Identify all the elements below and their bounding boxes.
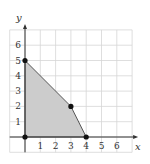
y-tick-labels: 123456 [15,40,21,127]
x-axis-label: x [135,141,141,152]
x-tick-labels: 123456 [37,141,120,151]
chart-plot: 123456 123456 x y [0,0,150,164]
y-tick-label: 4 [15,71,21,81]
x-tick-label: 1 [37,141,43,151]
y-axis-label: y [15,12,22,23]
y-tick-label: 1 [15,117,21,127]
vertex-point [68,104,73,109]
vertex-point [84,134,89,139]
y-tick-label: 6 [15,40,21,50]
x-axis-arrow-icon [133,135,138,139]
y-tick-label: 3 [15,86,21,96]
vertex-point [22,58,27,63]
x-tick-label: 5 [99,141,105,151]
y-tick-label: 2 [15,101,21,111]
x-tick-label: 6 [114,141,120,151]
y-axis-arrow-icon [23,24,27,29]
x-tick-label: 4 [83,141,89,151]
y-tick-label: 5 [15,56,21,66]
x-tick-label: 2 [53,141,59,151]
vertex-point [22,134,27,139]
x-tick-label: 3 [68,141,74,151]
